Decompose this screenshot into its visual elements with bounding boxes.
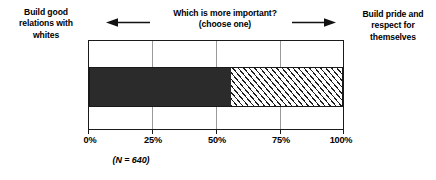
survey-bar-chart-figure: Build good relations with whites Build p… (0, 0, 436, 180)
axis-tick-25 (152, 130, 153, 134)
arrow-right-icon (292, 17, 336, 28)
axis-tick-50 (216, 130, 217, 134)
axis-label-100: 100% (321, 135, 361, 145)
bar-segment-pride-and-respect (231, 67, 343, 107)
plot-area (88, 40, 344, 130)
right-pole-label: Build pride and respect for themselves (356, 9, 430, 43)
sample-size-note: (N = 640) (88, 155, 174, 165)
chart-subtitle: (choose one) (148, 19, 302, 30)
axis-label-50: 50% (197, 135, 237, 145)
axis-tick-75 (280, 130, 281, 134)
bar-segment-relations-with-whites (89, 67, 231, 107)
axis-tick-100 (343, 130, 344, 134)
axis-label-75: 75% (261, 135, 301, 145)
left-pole-label: Build good relations with whites (6, 7, 86, 41)
chart-prompt: Which is more important? (choose one) (148, 8, 302, 30)
axis-tick-0 (88, 130, 89, 134)
chart-title: Which is more important? (148, 8, 302, 19)
stacked-bar (89, 67, 343, 107)
arrow-left-icon (106, 17, 150, 28)
axis-label-25: 25% (133, 135, 173, 145)
axis-label-0: 0% (70, 135, 110, 145)
